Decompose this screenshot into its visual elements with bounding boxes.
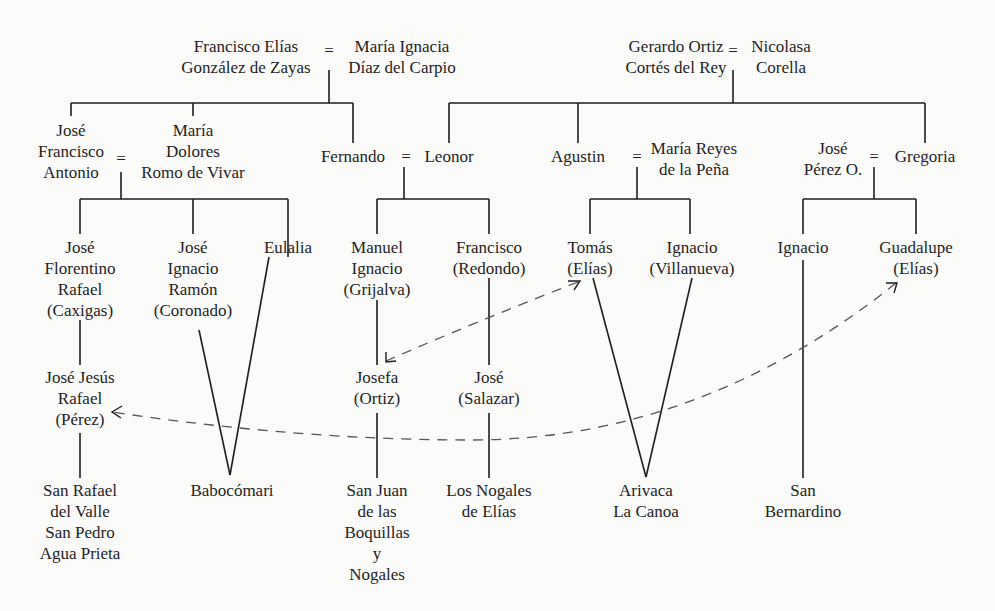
name-line: Ramón (154, 279, 232, 300)
person-eulalia: Eulalia (264, 237, 312, 258)
place-line: Arivaca (613, 480, 679, 501)
place-line: San Rafael (40, 480, 121, 501)
name-line: (Elías) (879, 258, 953, 279)
name-line: José (45, 237, 116, 258)
person-gerardo-ortiz: Gerardo Ortiz Cortés del Rey (625, 36, 726, 78)
marriage-symbol: = (869, 148, 879, 165)
person-maria-reyes: María Reyes de la Peña (651, 138, 737, 180)
name-line: Guadalupe (879, 237, 953, 258)
name-line: (Pérez) (45, 409, 114, 430)
person-jose-francisco-antonio: José Francisco Antonio (38, 120, 104, 183)
name-line: Dolores (141, 141, 245, 162)
person-ignacio: Ignacio (778, 237, 829, 258)
person-leonor: Leonor (424, 146, 473, 167)
name-line: Manuel (343, 237, 410, 258)
name-line: Díaz del Carpio (348, 57, 456, 78)
genealogy-diagram: Francisco Elías González de Zayas = Marí… (0, 0, 995, 611)
marriage-symbol: = (728, 42, 738, 59)
name-line: Nicolasa (751, 36, 810, 57)
name-line: Antonio (38, 162, 104, 183)
name-line: Tomás (567, 237, 612, 258)
place-line: del Valle (40, 501, 121, 522)
person-ignacio-villanueva: Ignacio (Villanueva) (650, 237, 735, 279)
place-line: Los Nogales (446, 480, 531, 501)
person-maria-dolores: María Dolores Romo de Vivar (141, 120, 245, 183)
place-line: Nogales (344, 564, 409, 585)
name-line: José (38, 120, 104, 141)
place-babocomari: Babocómari (190, 480, 273, 501)
marriage-symbol: = (116, 150, 126, 167)
marriage-symbol: = (401, 148, 411, 165)
name-line: José (458, 367, 519, 388)
place-los-nogales: Los Nogales de Elías (446, 480, 531, 522)
marriage-symbol: = (632, 148, 642, 165)
name-line: Florentino (45, 258, 116, 279)
person-francisco-elias: Francisco Elías González de Zayas (181, 36, 310, 78)
name-line: de la Peña (651, 159, 737, 180)
place-line: de las (344, 501, 409, 522)
place-san-bernardino: San Bernardino (758, 480, 848, 522)
marriage-symbol: = (324, 42, 334, 59)
name-line: González de Zayas (181, 57, 310, 78)
name-line: José Jesús (45, 367, 114, 388)
name-line: Pérez O. (804, 159, 863, 180)
person-josefa: Josefa (Ortiz) (354, 367, 400, 409)
person-jose-jesus-rafael: José Jesús Rafael (Pérez) (45, 367, 114, 430)
person-agustin: Agustin (551, 146, 605, 167)
person-jose-ignacio-ramon: José Ignacio Ramón (Coronado) (154, 237, 232, 321)
name-line: Rafael (45, 388, 114, 409)
name-line: Cortés del Rey (625, 57, 726, 78)
name-line: María (141, 120, 245, 141)
name-line: (Elías) (567, 258, 612, 279)
name-line: María Reyes (651, 138, 737, 159)
name-line: (Salazar) (458, 388, 519, 409)
name-line: José (154, 237, 232, 258)
name-line: Leonor (424, 146, 473, 167)
name-line: Ignacio (343, 258, 410, 279)
name-line: Ignacio (778, 237, 829, 258)
place-line: de Elías (446, 501, 531, 522)
name-line: Ignacio (650, 237, 735, 258)
name-line: José (804, 138, 863, 159)
name-line: Francisco Elías (181, 36, 310, 57)
place-line: Boquillas (344, 522, 409, 543)
person-jose-perez: José Pérez O. (804, 138, 863, 180)
name-line: (Grijalva) (343, 279, 410, 300)
person-maria-ignacia: María Ignacia Díaz del Carpio (348, 36, 456, 78)
place-line: San Juan (344, 480, 409, 501)
name-line: Francisco (38, 141, 104, 162)
place-line: Agua Prieta (40, 543, 121, 564)
name-line: (Redondo) (453, 258, 526, 279)
place-line: La Canoa (613, 501, 679, 522)
name-line: (Coronado) (154, 300, 232, 321)
name-line: Romo de Vivar (141, 162, 245, 183)
place-line: San Pedro (40, 522, 121, 543)
name-line: Agustin (551, 146, 605, 167)
name-line: Fernando (321, 146, 385, 167)
place-arivaca: Arivaca La Canoa (613, 480, 679, 522)
name-line: Gerardo Ortiz (625, 36, 726, 57)
person-guadalupe: Guadalupe (Elías) (879, 237, 953, 279)
name-line: (Ortiz) (354, 388, 400, 409)
place-san-juan: San Juan de las Boquillas y Nogales (344, 480, 409, 585)
person-jose-florentino: José Florentino Rafael (Caxigas) (45, 237, 116, 321)
person-gregoria: Gregoria (895, 146, 955, 167)
name-line: María Ignacia (348, 36, 456, 57)
person-tomas: Tomás (Elías) (567, 237, 612, 279)
name-line: Eulalia (264, 237, 312, 258)
name-line: Francisco (453, 237, 526, 258)
name-line: (Caxigas) (45, 300, 116, 321)
person-jose-salazar: José (Salazar) (458, 367, 519, 409)
person-manuel-ignacio: Manuel Ignacio (Grijalva) (343, 237, 410, 300)
person-francisco-redondo: Francisco (Redondo) (453, 237, 526, 279)
place-san-rafael: San Rafael del Valle San Pedro Agua Prie… (40, 480, 121, 564)
person-fernando: Fernando (321, 146, 385, 167)
name-line: (Villanueva) (650, 258, 735, 279)
name-line: Gregoria (895, 146, 955, 167)
person-nicolasa: Nicolasa Corella (751, 36, 810, 78)
name-line: Ignacio (154, 258, 232, 279)
name-line: Rafael (45, 279, 116, 300)
place-line: San Bernardino (758, 480, 848, 522)
name-line: Corella (751, 57, 810, 78)
name-line: Josefa (354, 367, 400, 388)
